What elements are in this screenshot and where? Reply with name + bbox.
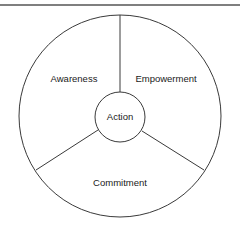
divider-left bbox=[36, 130, 98, 170]
divider-right bbox=[142, 131, 204, 170]
center-action-label: Action bbox=[107, 111, 133, 122]
segment-commitment-label: Commitment bbox=[93, 177, 147, 188]
segment-empowerment-label: Empowerment bbox=[135, 73, 197, 84]
segment-awareness-label: Awareness bbox=[51, 73, 98, 84]
action-cycle-diagram: Awareness Empowerment Commitment Action bbox=[0, 0, 240, 232]
